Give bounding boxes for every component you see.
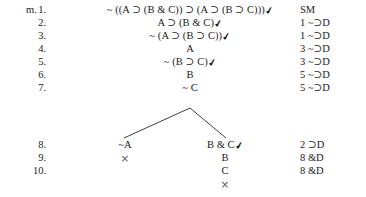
formula-text-2: A ⊃ (B & C): [157, 17, 214, 28]
right-branch-text-10: C: [221, 165, 228, 176]
justification-line-7: 5 ~⊃D: [300, 82, 330, 93]
line-number-8: 8.: [20, 139, 46, 150]
right-branch-text-8: B & C: [207, 139, 234, 150]
right-branch-formula-9: B: [195, 152, 255, 163]
left-branch-text-8: ~A: [118, 139, 131, 150]
formula-text-1: ~ ((A ⊃ (B & C)) ⊃ (A ⊃ (B ⊃ C))): [107, 4, 265, 15]
justification-line-8: 2 ⊃D: [300, 139, 324, 150]
justification-line-5: 3 ~⊃D: [300, 56, 330, 67]
checkmark-icon-5: ✔: [207, 56, 218, 69]
formula-text-4: A: [186, 43, 194, 54]
justification-line-4: 3 ~⊃D: [300, 43, 330, 54]
justification-line-3: 1 ~⊃D: [300, 30, 330, 41]
formula-text-7: ~ C: [182, 82, 198, 93]
right-branch-text-9: B: [221, 152, 228, 163]
right-branch-formula-8: B & C✔: [195, 139, 255, 150]
left-branch-formula-8: ~A: [95, 139, 155, 150]
checkmark-icon-3: ✔: [221, 30, 232, 43]
justification-line-9: 8 &D: [300, 152, 324, 163]
formula-text-6: B: [186, 69, 193, 80]
right-branch-formula-10: C: [195, 165, 255, 176]
checkmark-icon-2: ✔: [213, 17, 224, 30]
right-branch-closure-marker: ×: [195, 179, 255, 190]
checkmark-icon-1: ✔: [264, 4, 275, 17]
line-number-10: 10.: [20, 165, 46, 176]
formula-text-3: ~ (A ⊃ (B ⊃ C)): [149, 30, 222, 41]
justification-line-2: 1 ~⊃D: [300, 17, 330, 28]
fork-left-segment: [124, 108, 190, 138]
justification-line-10: 8 &D: [300, 165, 324, 176]
justification-line-1: SM: [300, 4, 315, 15]
formula-text-5: ~ (B ⊃ C): [164, 56, 208, 67]
truth-tree-proof: m. 1. ~ ((A ⊃ (B & C)) ⊃ (A ⊃ (B ⊃ C)))✔…: [0, 0, 366, 197]
justification-line-6: 5 ~⊃D: [300, 69, 330, 80]
fork-right-segment: [190, 108, 226, 138]
left-branch-closure-marker: ×: [95, 153, 155, 164]
line-number-9: 9.: [20, 152, 46, 163]
